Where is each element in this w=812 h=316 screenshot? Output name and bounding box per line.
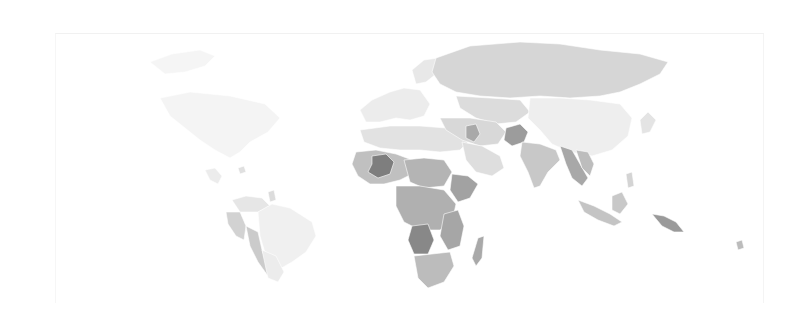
region-europe-west[interactable]: [360, 88, 430, 122]
region-japan-korea[interactable]: [640, 112, 656, 134]
region-greenland[interactable]: [150, 50, 215, 74]
region-pacific-islands[interactable]: [736, 240, 744, 250]
world-choropleth-map: [0, 0, 812, 316]
region-russia[interactable]: [432, 42, 668, 98]
region-east-africa[interactable]: [440, 210, 464, 250]
region-papua-new-guinea[interactable]: [652, 214, 684, 232]
region-horn-of-africa[interactable]: [450, 174, 478, 202]
region-peru-ecuador[interactable]: [226, 212, 246, 240]
region-central-america[interactable]: [205, 168, 222, 184]
region-madagascar[interactable]: [472, 236, 484, 266]
region-chad-sudan[interactable]: [404, 158, 452, 188]
region-guyana-region[interactable]: [268, 190, 276, 202]
region-india[interactable]: [520, 142, 560, 188]
region-north-america[interactable]: [160, 92, 280, 158]
region-borneo[interactable]: [612, 192, 628, 214]
region-caribbean[interactable]: [238, 166, 246, 174]
region-philippines[interactable]: [626, 172, 634, 188]
region-southern-africa[interactable]: [414, 252, 454, 288]
map-canvas: [0, 0, 812, 316]
region-arabia[interactable]: [462, 142, 504, 176]
